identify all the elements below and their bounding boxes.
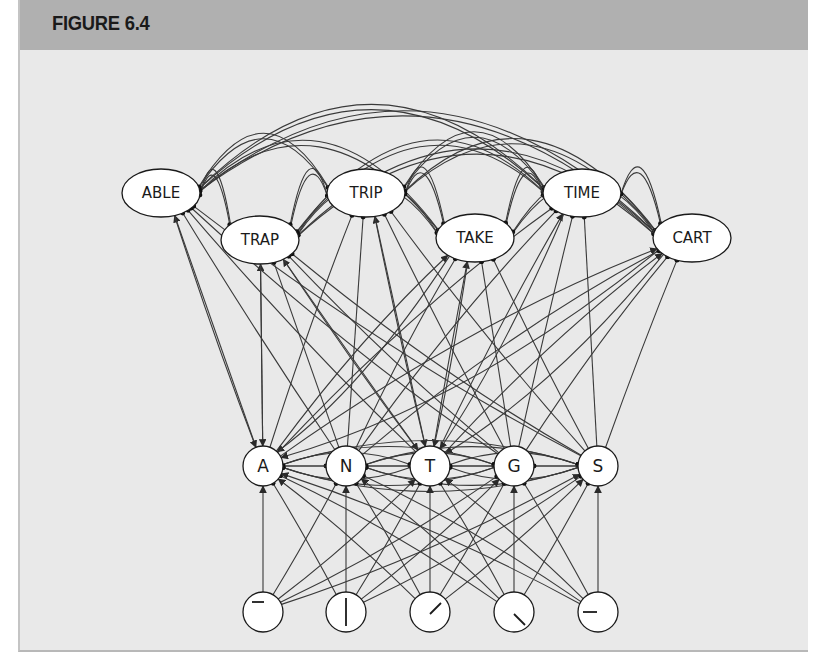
word-node-take: TAKE — [436, 214, 514, 262]
feature-node-vertical-bar — [326, 592, 366, 632]
letter-node-a: A — [243, 446, 283, 486]
feature-node-horizontal-bar-middle — [578, 592, 618, 632]
feature-node-horizontal-bar-top — [243, 592, 283, 632]
word-label: ABLE — [142, 184, 180, 202]
letter-label: A — [257, 456, 269, 476]
word-label: TIME — [563, 184, 600, 202]
word-label: TRAP — [240, 231, 279, 249]
letter-node-t: T — [410, 446, 450, 486]
letter-node-n: N — [326, 446, 366, 486]
word-node-trap: TRAP — [221, 216, 299, 264]
word-label: TRIP — [348, 184, 382, 202]
letter-label: G — [507, 456, 520, 476]
word-node-able: ABLE — [122, 169, 200, 217]
word-node-time: TIME — [543, 169, 621, 217]
word-label: TAKE — [455, 229, 494, 247]
word-label: CART — [672, 229, 712, 247]
word-node-cart: CART — [653, 214, 731, 262]
network-diagram: ABLETRAPTRIPTAKETIMECART ANTGS — [0, 0, 820, 668]
letter-label: S — [593, 456, 604, 476]
word-node-trip: TRIP — [327, 169, 405, 217]
letter-label: T — [424, 456, 436, 476]
letter-node-s: S — [578, 446, 618, 486]
feature-node-diagonal-rising — [410, 592, 450, 632]
letter-label: N — [340, 456, 353, 476]
feature-node-diagonal-falling — [494, 592, 534, 632]
letter-node-g: G — [494, 446, 534, 486]
